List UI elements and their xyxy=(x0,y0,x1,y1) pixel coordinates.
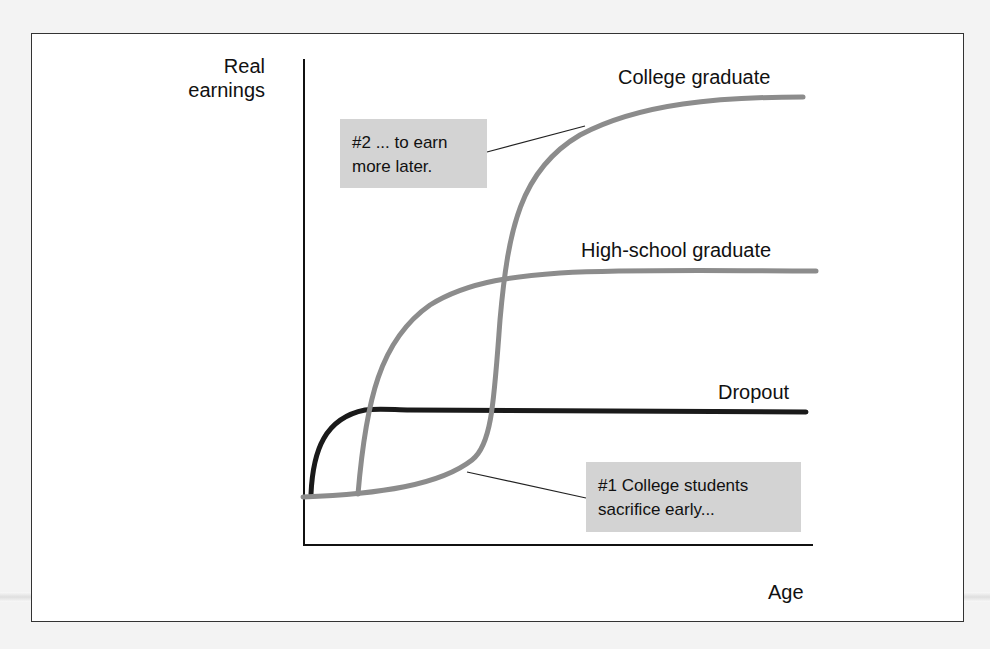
x-axis-label: Age xyxy=(768,580,804,604)
series-label-highschool: High-school graduate xyxy=(581,238,771,262)
y-axis-label-line2: earnings xyxy=(170,78,265,102)
callout-1: #1 College students sacrifice early... xyxy=(586,462,801,532)
series-label-dropout: Dropout xyxy=(718,380,789,404)
callout-1-leader xyxy=(467,472,586,498)
y-axis-label: Real earnings xyxy=(170,54,265,102)
callout-1-line1: #1 College students xyxy=(598,474,789,498)
callout-1-line2: sacrifice early... xyxy=(598,498,789,522)
callout-2-line2: more later. xyxy=(352,155,475,179)
series-label-college: College graduate xyxy=(618,65,770,89)
callout-2-line1: #2 ... to earn xyxy=(352,131,475,155)
y-axis-label-line1: Real xyxy=(170,54,265,78)
callout-2: #2 ... to earn more later. xyxy=(340,119,487,188)
plot-area xyxy=(0,0,990,649)
